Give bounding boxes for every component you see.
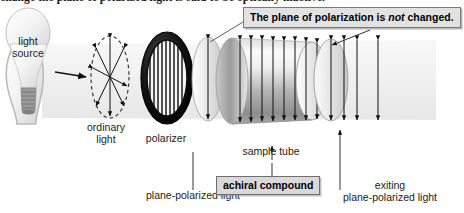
light-source-line2: source bbox=[12, 48, 44, 60]
callout-emphasis: not bbox=[388, 11, 404, 23]
label-ordinary-light: ordinary light bbox=[87, 122, 125, 145]
callout-text-before: The plane of polarization is bbox=[250, 11, 388, 23]
sample-tube bbox=[216, 38, 328, 124]
ordinary-light-line2: light bbox=[87, 134, 125, 146]
optical-activity-diagram: change the plane of polarized light is s… bbox=[0, 0, 464, 213]
exiting-line1: exiting bbox=[343, 180, 437, 192]
ordinary-light-line1: ordinary bbox=[87, 122, 125, 134]
callout-text-after: changed. bbox=[405, 11, 454, 23]
label-polarizer: polarizer bbox=[146, 133, 186, 145]
label-light-source: light source bbox=[12, 36, 44, 59]
vertical-slits-icon bbox=[141, 32, 193, 124]
callout-plane-unchanged: The plane of polarization is not changed… bbox=[243, 7, 461, 28]
label-achiral-compound: achiral compound bbox=[216, 176, 320, 195]
label-sample-tube: sample tube bbox=[242, 146, 299, 158]
label-exiting-light: exiting plane-polarized light bbox=[343, 180, 437, 203]
light-source-line1: light bbox=[12, 36, 44, 48]
exiting-line2: plane-polarized light bbox=[343, 192, 437, 204]
